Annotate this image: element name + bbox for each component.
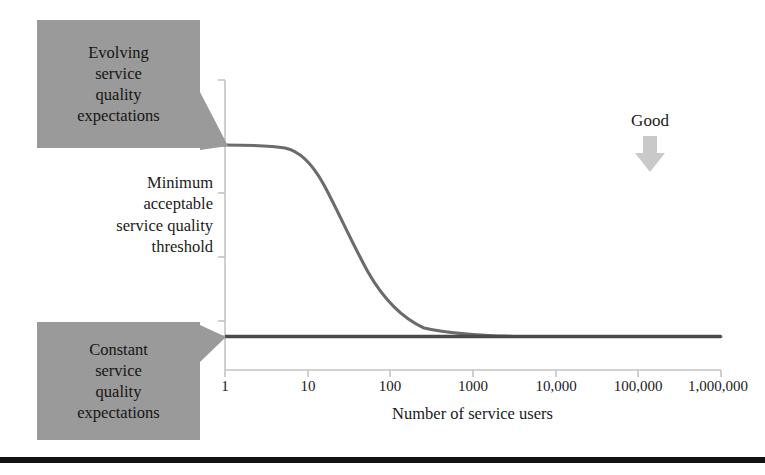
x-tick-label: 10,000 xyxy=(535,378,576,395)
bottom-rule-divider xyxy=(0,457,765,463)
threshold-label-line: threshold xyxy=(55,236,213,257)
callout-line: Evolving xyxy=(88,42,149,63)
good-label: Good xyxy=(604,112,696,130)
x-tick-label: 10 xyxy=(301,378,316,395)
x-tick-label: 1000 xyxy=(458,378,488,395)
x-tick-label: 100 xyxy=(379,378,402,395)
threshold-label-line: service quality xyxy=(55,215,213,236)
good-direction-marker: Good xyxy=(604,112,696,130)
threshold-label-line: Minimum xyxy=(55,172,213,193)
evolving-service-quality-expectations-callout: Evolving service quality expectations xyxy=(37,20,200,148)
callout-line: Constant xyxy=(89,339,148,360)
x-axis-ticks xyxy=(225,370,721,377)
callout-line: quality xyxy=(96,84,142,105)
x-tick-label: 100,000 xyxy=(614,378,663,395)
x-tick-label: 1,000,000 xyxy=(688,378,748,395)
callout-line: service xyxy=(95,63,142,84)
x-tick-label: 1 xyxy=(221,378,229,395)
x-axis-title: Number of service users xyxy=(225,404,720,424)
constant-callout-tail xyxy=(200,325,226,362)
constant-service-quality-expectations-callout: Constant service quality expectations xyxy=(37,322,200,440)
good-down-arrow-icon xyxy=(635,136,665,172)
callout-line: expectations xyxy=(77,402,159,423)
callout-line: expectations xyxy=(77,105,159,126)
evolving-expectations-curve xyxy=(225,145,721,337)
minimum-acceptable-threshold-label: Minimum acceptable service quality thres… xyxy=(55,172,213,258)
threshold-label-line: acceptable xyxy=(55,193,213,214)
callout-line: service xyxy=(95,360,142,381)
y-axis-ticks xyxy=(218,80,225,336)
service-quality-figure: Evolving service quality expectations Co… xyxy=(0,0,765,475)
callout-line: quality xyxy=(96,381,142,402)
